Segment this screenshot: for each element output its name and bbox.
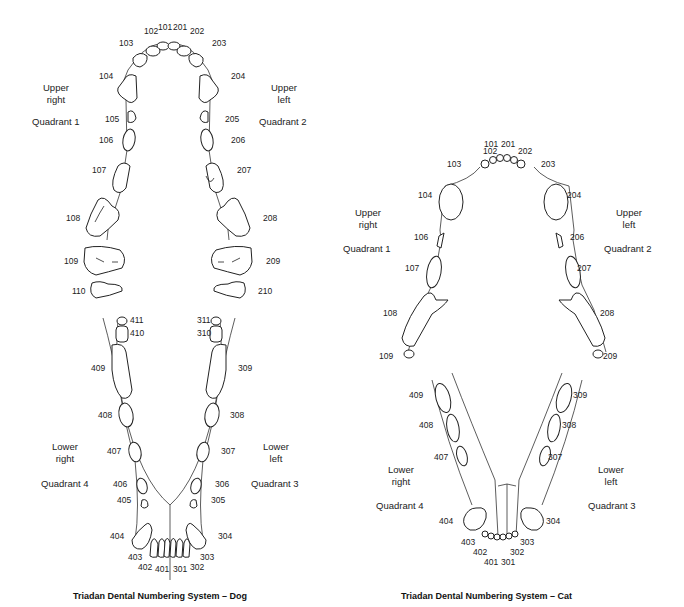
cat-tooth-204: [544, 184, 568, 220]
cat-tooth-103: [481, 160, 489, 168]
cat-label-303: 303: [520, 538, 534, 547]
dog-tooth-107: [113, 163, 130, 193]
cat-tooth-404: [464, 508, 487, 531]
cat-label-106: 106: [414, 233, 428, 242]
dog-tooth-104: [118, 75, 137, 103]
dog-label-305: 305: [211, 496, 225, 505]
cat-tooth-302: [506, 533, 512, 539]
cat-tooth-301: [500, 534, 506, 540]
dog-tooth-404: [132, 523, 152, 549]
cat-label-404: 404: [439, 517, 453, 526]
dog-label-406: 406: [113, 480, 127, 489]
dog-label-411: 411: [130, 316, 144, 325]
cat-label-204: 204: [567, 191, 581, 200]
dog-label-307: 307: [221, 447, 235, 456]
dog-label-404: 404: [110, 532, 124, 541]
dog-quadrant-4-name: Quadrant 4: [41, 478, 89, 490]
cat-label-108: 108: [383, 309, 397, 318]
dog-tooth-309: [206, 344, 226, 398]
cat-tooth-203: [517, 160, 525, 168]
cat-tooth-403: [482, 531, 488, 537]
dog-label-410: 410: [130, 329, 144, 338]
dog-label-204: 204: [231, 72, 245, 81]
dog-label-110: 110: [72, 287, 86, 296]
dog-tooth-205: [200, 111, 208, 123]
dog-label-205: 205: [225, 115, 239, 124]
dog-label-402: 402: [138, 563, 152, 572]
dog-quadrant-3-name: Quadrant 3: [251, 478, 299, 490]
dog-quadrant-2-desc: Upper left: [271, 82, 297, 106]
dog-label-301: 301: [173, 565, 187, 574]
dog-tooth-308: [203, 402, 221, 428]
dog-label-311: 311: [197, 316, 211, 325]
dog-tooth-307: [195, 441, 211, 463]
dog-label-102: 102: [144, 27, 158, 36]
dog-label-203: 203: [212, 39, 226, 48]
cat-label-209: 209: [603, 352, 617, 361]
cat-label-202: 202: [518, 147, 532, 156]
cat-label-208: 208: [600, 309, 614, 318]
cat-tooth-409: [432, 382, 453, 415]
cat-label-104: 104: [418, 191, 432, 200]
dog-tooth-411: [117, 317, 127, 325]
dog-label-108: 108: [66, 214, 80, 223]
cat-tooth-102: [490, 157, 497, 164]
dog-label-201: 201: [173, 23, 187, 32]
dog-label-302: 302: [190, 563, 204, 572]
dog-tooth-208: [217, 198, 250, 236]
dog-label-210: 210: [258, 287, 272, 296]
dog-tooth-401: [164, 538, 170, 557]
dog-tooth-106: [121, 128, 137, 152]
dog-label-303: 303: [200, 553, 214, 562]
dog-label-407: 407: [107, 447, 121, 456]
cat-quadrant-3-desc: Lower left: [598, 464, 624, 488]
cat-label-302: 302: [510, 548, 524, 557]
dog-tooth-202: [177, 46, 191, 56]
cat-quadrant-2-desc: Upper left: [616, 207, 642, 231]
cat-label-304: 304: [546, 517, 560, 526]
dog-tooth-303: [183, 539, 190, 558]
dog-tooth-210: [214, 282, 246, 298]
dog-label-206: 206: [231, 136, 245, 145]
dog-tooth-311: [211, 317, 221, 325]
dog-tooth-403: [150, 539, 158, 558]
cat-upper-arch: [402, 155, 606, 359]
cat-label-403: 403: [461, 538, 475, 547]
dog-tooth-108: [86, 198, 119, 236]
dog-label-405: 405: [117, 496, 131, 505]
dog-tooth-203: [189, 53, 203, 67]
cat-label-101: 101: [484, 140, 498, 149]
cat-label-401: 401: [484, 558, 498, 567]
dog-label-109: 109: [64, 257, 78, 266]
cat-tooth-208: [559, 293, 605, 347]
cat-label-402: 402: [473, 548, 487, 557]
cat-label-207: 207: [577, 264, 591, 273]
dog-label-103: 103: [119, 39, 133, 48]
dog-tooth-405: [141, 500, 148, 508]
dog-label-209: 209: [266, 257, 280, 266]
dog-tooth-301: [170, 538, 176, 557]
dog-tooth-105: [128, 111, 136, 123]
cat-tooth-304: [521, 508, 544, 531]
cat-label-103: 103: [447, 160, 461, 169]
dog-tooth-103: [133, 53, 147, 67]
dog-label-202: 202: [190, 27, 204, 36]
dog-tooth-102: [146, 46, 160, 56]
dog-label-304: 304: [218, 532, 232, 541]
dog-label-309: 309: [238, 364, 252, 373]
dog-quadrant-1-desc: Upper right: [43, 82, 69, 106]
cat-tooth-206: [556, 233, 563, 248]
dog-label-104: 104: [99, 72, 113, 81]
cat-tooth-202: [511, 157, 518, 164]
dog-quadrant-2-name: Quadrant 2: [259, 116, 307, 128]
cat-tooth-308: [546, 413, 563, 443]
dog-caption: Triadan Dental Numbering System – Dog: [73, 591, 247, 601]
cat-tooth-402: [488, 533, 494, 539]
cat-label-409: 409: [409, 391, 423, 400]
cat-label-408: 408: [419, 421, 433, 430]
cat-label-107: 107: [405, 264, 419, 273]
cat-tooth-201: [504, 155, 511, 162]
dog-label-105: 105: [105, 115, 119, 124]
cat-tooth-401: [494, 534, 500, 540]
dog-tooth-409: [112, 344, 132, 398]
